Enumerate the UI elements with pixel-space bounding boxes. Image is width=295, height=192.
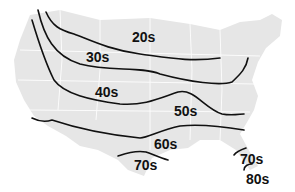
zone-label-70s-east: 70s — [240, 152, 263, 166]
zone-label-60s: 60s — [154, 137, 177, 151]
zone-label-20s: 20s — [132, 30, 155, 44]
zone-label-80s: 80s — [246, 172, 269, 186]
zone-label-40s: 40s — [95, 85, 118, 99]
zone-label-70s-west: 70s — [134, 158, 157, 172]
zone-label-30s: 30s — [86, 50, 109, 64]
zone-label-50s: 50s — [174, 104, 197, 118]
